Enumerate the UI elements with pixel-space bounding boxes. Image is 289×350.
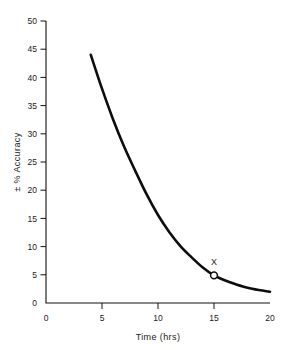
y-tick-label-20: 20 [28,185,38,195]
marked-point-group: X [211,257,218,278]
y-tick-label-10: 10 [28,242,38,252]
x-tick-label-15: 15 [209,313,219,323]
y-tick-label-40: 40 [28,73,38,83]
x-axis-tick-labels: 0 5 10 15 20 [44,313,275,323]
x-axis-title: Time (hrs) [136,332,181,342]
axes-lines [46,21,270,303]
x-tick-label-5: 5 [100,313,105,323]
y-tick-label-25: 25 [28,157,38,167]
y-tick-label-15: 15 [28,214,38,224]
y-tick-label-35: 35 [28,101,38,111]
y-tick-label-50: 50 [28,16,38,26]
y-axis-title: ± % Accuracy [12,132,22,191]
y-tick-label-30: 30 [28,129,38,139]
y-tick-label-45: 45 [28,44,38,54]
y-axis-ticks [41,21,47,275]
y-tick-label-5: 5 [32,270,37,280]
x-axis-ticks [102,303,214,309]
x-tick-label-10: 10 [153,313,163,323]
chart-plot-area: 50 45 40 35 30 25 20 15 10 5 0 0 5 10 15… [0,0,289,350]
marked-point-circle [211,272,218,279]
chart-container: 50 45 40 35 30 25 20 15 10 5 0 0 5 10 15… [0,0,289,350]
marked-point-label: X [211,257,217,267]
y-tick-label-0: 0 [32,298,37,308]
x-tick-label-0: 0 [44,313,49,323]
accuracy-decay-curve [91,55,270,292]
axis-frame [46,21,270,303]
x-tick-label-20: 20 [265,313,275,323]
y-axis-tick-labels: 50 45 40 35 30 25 20 15 10 5 0 [28,16,38,308]
